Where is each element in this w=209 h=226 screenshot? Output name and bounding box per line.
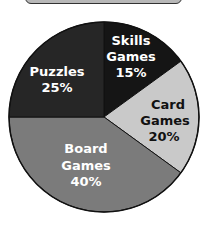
- label-board-pct: 40%: [70, 174, 101, 189]
- label-skills-line2: Games: [106, 49, 156, 64]
- pie-chart: Skills Games 15% Card Games 20% Puzzles …: [0, 0, 209, 226]
- label-card-line1: Card: [151, 97, 185, 112]
- label-puzzles-pct: 25%: [41, 80, 72, 95]
- label-skills-pct: 15%: [115, 65, 146, 80]
- label-card-line2: Games: [140, 113, 190, 128]
- label-board-line2: Games: [61, 158, 111, 173]
- label-skills-line1: Skills: [111, 33, 150, 48]
- label-puzzles-line1: Puzzles: [30, 64, 85, 79]
- label-card-pct: 20%: [148, 129, 179, 144]
- label-board-line1: Board: [64, 141, 107, 156]
